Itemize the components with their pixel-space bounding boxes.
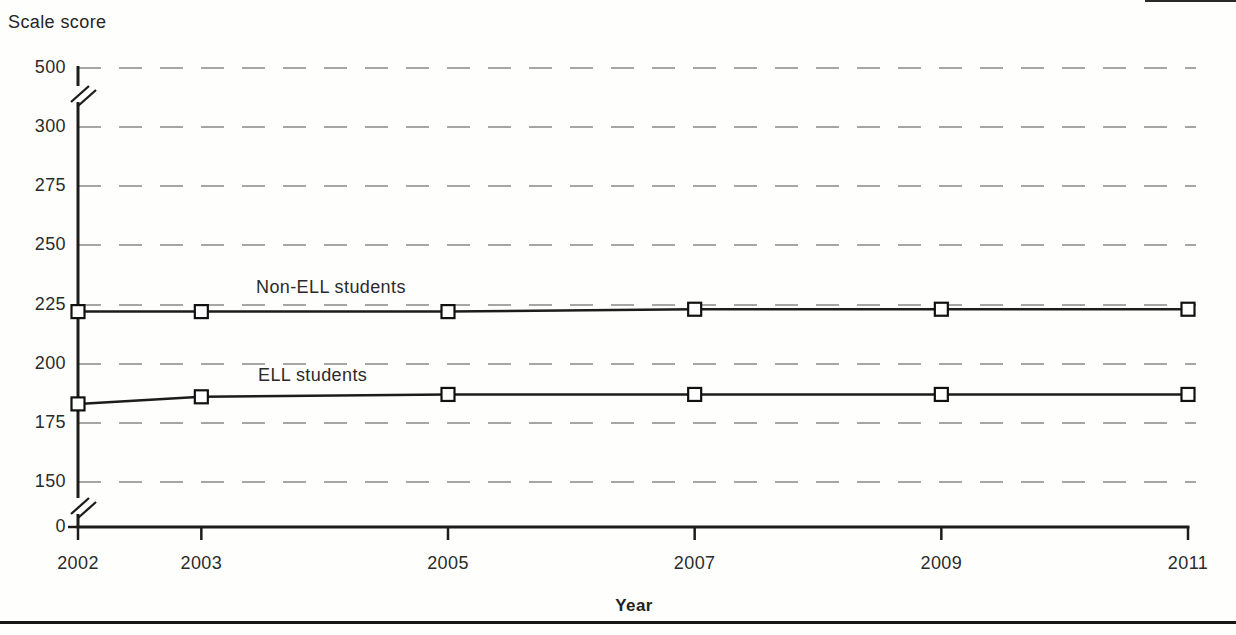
chart-figure: Scale score 0150175200225250275300500 No… (0, 0, 1236, 635)
x-axis-title: Year (592, 596, 676, 616)
marker-ell-2003 (195, 390, 208, 403)
plot-area (0, 0, 1236, 635)
x-tick-label-2011: 2011 (1148, 553, 1228, 574)
marker-ell-2011 (1182, 388, 1195, 401)
marker-non-ell-2011 (1182, 303, 1195, 316)
x-tick-label-2009: 2009 (901, 553, 981, 574)
marker-ell-2002 (72, 397, 85, 410)
page-rule-bottom (0, 621, 1236, 624)
x-tick-label-2005: 2005 (408, 553, 488, 574)
x-tick-label-2007: 2007 (655, 553, 735, 574)
marker-non-ell-2009 (935, 303, 948, 316)
marker-non-ell-2007 (688, 303, 701, 316)
page-rule-top-right (1145, 0, 1236, 2)
marker-non-ell-2005 (442, 305, 455, 318)
marker-non-ell-2003 (195, 305, 208, 318)
marker-ell-2005 (442, 388, 455, 401)
x-tick-label-2003: 2003 (161, 553, 241, 574)
series-label-ell: ELL students (258, 365, 367, 386)
series-line-non-ell (78, 309, 1188, 311)
x-tick-label-2002: 2002 (38, 553, 118, 574)
series-line-ell (78, 394, 1188, 403)
series-label-non-ell: Non-ELL students (256, 277, 406, 298)
marker-ell-2007 (688, 388, 701, 401)
marker-non-ell-2002 (72, 305, 85, 318)
marker-ell-2009 (935, 388, 948, 401)
